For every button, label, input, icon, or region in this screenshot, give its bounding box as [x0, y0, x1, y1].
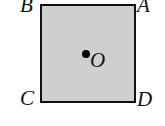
vertex-label-a: A [137, 0, 150, 16]
center-label-o: O [90, 50, 105, 71]
vertex-label-c: C [20, 88, 34, 109]
vertex-label-b: B [20, 0, 33, 16]
vertex-label-d: D [137, 89, 152, 110]
diagram-canvas: B A C D O [0, 0, 165, 126]
center-point-dot [82, 50, 90, 58]
